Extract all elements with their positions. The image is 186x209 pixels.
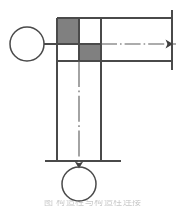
shaded-cell-top-left	[57, 18, 79, 44]
left-circle-node	[10, 27, 44, 61]
figure-container: 图 构造柱与构造柱连接	[0, 0, 186, 209]
centerlines	[79, 44, 176, 167]
bottom-circle-node	[62, 167, 96, 201]
shaded-cell-bottom-right	[79, 44, 101, 61]
figure-caption-strip: 图 构造柱与构造柱连接	[0, 200, 186, 209]
figure-caption: 图 构造柱与构造柱连接	[0, 200, 186, 208]
technical-diagram	[0, 0, 186, 209]
